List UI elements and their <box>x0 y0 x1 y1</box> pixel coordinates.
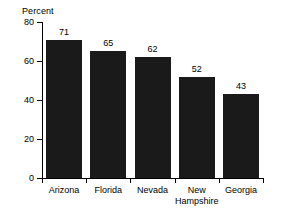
y-tick-label-wrap: 80 <box>0 18 34 27</box>
y-tick-label-wrap: 20 <box>0 135 34 144</box>
y-tick-label: 80 <box>24 18 34 27</box>
y-tick-label-wrap: 0 <box>0 174 34 183</box>
x-category-label: Georgia <box>219 185 263 196</box>
bar <box>46 40 82 178</box>
y-axis-title: Percent <box>22 6 54 17</box>
bar <box>179 77 215 178</box>
y-tick-label: 0 <box>29 174 34 183</box>
bar-value-label: 43 <box>219 81 263 91</box>
y-tick-label: 40 <box>24 96 34 105</box>
x-tick-mark <box>42 178 43 183</box>
x-tick-mark <box>130 178 131 183</box>
bar <box>135 57 171 178</box>
bar-value-label: 62 <box>130 44 174 54</box>
bar-chart: Percent 020406080 7165625243 ArizonaFlor… <box>0 0 282 224</box>
bar <box>223 94 259 178</box>
x-tick-mark <box>263 178 264 183</box>
bar-value-label: 52 <box>175 64 219 74</box>
bar-value-label: 65 <box>86 38 130 48</box>
x-category-label: New <box>175 185 219 196</box>
x-tick-mark <box>86 178 87 183</box>
x-category-label: Florida <box>86 185 130 196</box>
bar <box>90 51 126 178</box>
y-tick-label-wrap: 40 <box>0 96 34 105</box>
x-axis-line <box>42 178 263 179</box>
x-category-label: Arizona <box>42 185 86 196</box>
x-tick-mark <box>175 178 176 183</box>
y-tick-label: 60 <box>24 57 34 66</box>
x-category-label-line2: Hampshire <box>175 196 219 207</box>
bar-value-label: 71 <box>42 27 86 37</box>
x-tick-mark <box>219 178 220 183</box>
y-tick-label-wrap: 60 <box>0 57 34 66</box>
x-category-label: Nevada <box>130 185 174 196</box>
y-tick-label: 20 <box>24 135 34 144</box>
